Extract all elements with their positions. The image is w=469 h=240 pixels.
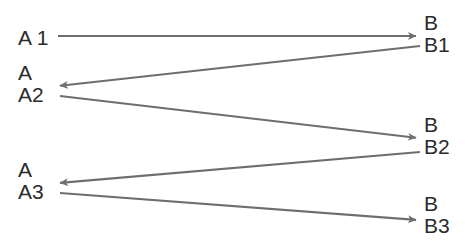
arrow-a3-to-b3 [60,193,416,220]
node-label-b2-text: B2 [424,136,450,158]
node-label-b1: B B1 [424,12,450,56]
node-label-a3: A A3 [18,159,44,203]
node-label-b2-head: B [424,114,450,136]
arrow-a2-to-b2 [60,96,416,138]
node-label-a2-text: A2 [18,84,44,106]
node-label-b2: B B2 [424,114,450,158]
arrow-b1-to-a2 [60,46,420,86]
node-label-a3-head: A [18,159,44,181]
node-label-a2: A A2 [18,62,44,106]
arrow-layer [0,0,469,240]
diagram-canvas: A 1 A A2 A A3 B B1 B B2 B B3 [0,0,469,240]
node-label-b1-head: B [424,12,450,34]
node-label-a3-text: A3 [18,181,44,203]
node-label-a2-head: A [18,62,44,84]
node-label-b3-head: B [424,193,450,215]
node-label-b3: B B3 [424,193,450,237]
node-label-a1: A 1 [18,27,48,49]
node-label-b1-text: B1 [424,34,450,56]
arrow-b2-to-a3 [60,152,420,183]
node-label-a1-text: A 1 [18,27,48,49]
node-label-b3-text: B3 [424,215,450,237]
